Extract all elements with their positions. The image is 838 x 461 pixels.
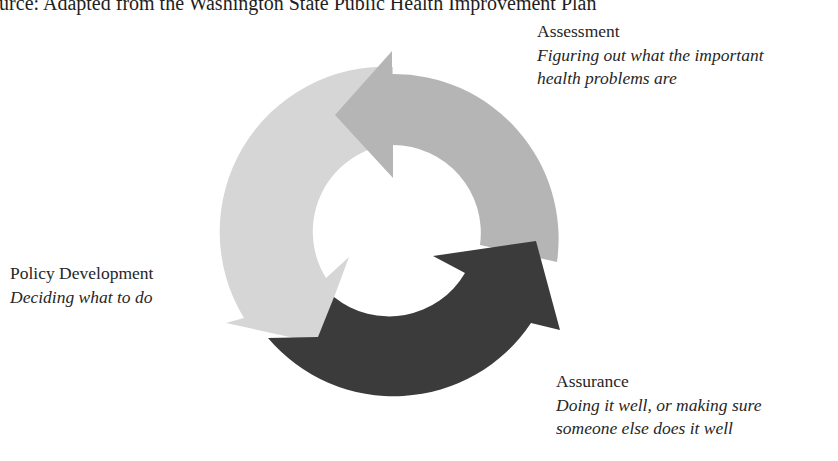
stage-label-assessment: Assessment Figuring out what the importa… bbox=[537, 20, 764, 91]
stage-title: Policy Development bbox=[10, 262, 153, 286]
stage-description-line: health problems are bbox=[537, 67, 764, 91]
stage-label-assurance: Assurance Doing it well, or making sure … bbox=[556, 370, 761, 441]
stage-description-line: Figuring out what the important bbox=[537, 44, 764, 68]
stage-description-line: Doing it well, or making sure bbox=[556, 394, 761, 418]
stage-title: Assessment bbox=[537, 20, 764, 44]
stage-description-line: someone else does it well bbox=[556, 417, 761, 441]
stage-title: Assurance bbox=[556, 370, 761, 394]
stage-label-policy-development: Policy Development Deciding what to do bbox=[10, 262, 153, 309]
stage-description-line: Deciding what to do bbox=[10, 286, 153, 310]
assessment-arrow bbox=[335, 51, 559, 262]
